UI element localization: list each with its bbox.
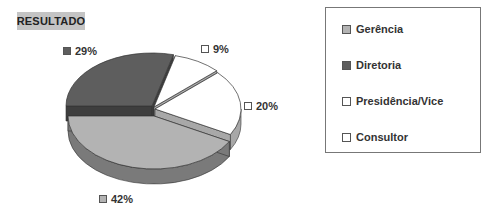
diretoria-value: 29% — [75, 45, 97, 57]
legend-swatch-presidencia-icon — [342, 97, 351, 106]
diretoria-swatch-icon — [63, 47, 71, 55]
legend-label: Consultor — [356, 131, 408, 143]
gerencia-swatch-icon — [99, 195, 107, 203]
legend-label: Presidência/Vice — [356, 95, 443, 107]
legend-label: Diretoria — [356, 59, 401, 71]
data-label-presidencia: 9% — [201, 43, 229, 55]
data-label-gerencia: 42% — [99, 193, 133, 205]
legend-swatch-gerencia-icon — [342, 25, 351, 34]
legend-item-presidencia: Presidência/Vice — [342, 95, 443, 107]
legend-item-consultor: Consultor — [342, 131, 408, 143]
chart-legend: Gerência Diretoria Presidência/Vice Cons… — [325, 7, 481, 153]
legend-item-gerencia: Gerência — [342, 23, 403, 35]
presidencia-swatch-icon — [201, 45, 209, 53]
legend-label: Gerência — [356, 23, 403, 35]
data-label-diretoria: 29% — [63, 45, 97, 57]
legend-swatch-diretoria-icon — [342, 61, 351, 70]
consultor-swatch-icon — [244, 102, 252, 110]
data-label-consultor: 20% — [244, 100, 278, 112]
presidencia-value: 9% — [213, 43, 229, 55]
gerencia-value: 42% — [111, 193, 133, 205]
legend-swatch-consultor-icon — [342, 133, 351, 142]
consultor-value: 20% — [256, 100, 278, 112]
legend-item-diretoria: Diretoria — [342, 59, 401, 71]
